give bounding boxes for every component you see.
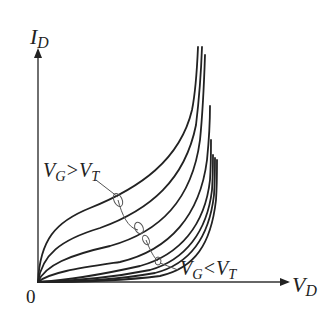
annotation-lower-right-sub: T	[228, 266, 236, 282]
diagram-canvas: ID VD 0 VG>VT VG<VT	[0, 0, 333, 323]
annotation-upper-operator: >	[66, 159, 79, 181]
annotation-lower-left-main: V	[180, 257, 192, 279]
annotation-vg-gt-vt: VG>VT	[43, 160, 99, 183]
annotation-upper-right-main: V	[79, 159, 91, 181]
x-axis-label-sub: D	[305, 282, 316, 299]
annotation-upper-right-sub: T	[91, 168, 99, 184]
x-axis-label: VD	[292, 274, 317, 299]
x-axis-label-main: V	[292, 272, 305, 297]
annotation-lower-operator: <	[203, 257, 216, 279]
annotation-vg-lt-vt: VG<VT	[180, 258, 236, 281]
y-axis-label: ID	[30, 26, 49, 51]
y-axis-label-sub: D	[37, 34, 48, 51]
annotation-upper-left-main: V	[43, 159, 55, 181]
origin-label: 0	[26, 287, 36, 306]
annotation-lower-left-sub: G	[192, 266, 202, 282]
annotation-lower-right-main: V	[216, 257, 228, 279]
annotation-upper-left-sub: G	[55, 168, 65, 184]
